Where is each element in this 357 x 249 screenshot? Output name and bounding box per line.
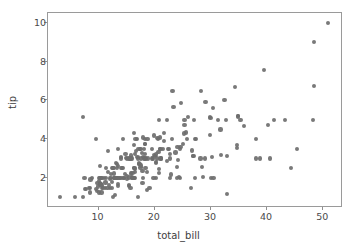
scatter-point [119,166,123,170]
scatter-point [182,123,186,127]
scatter-point [193,176,197,180]
scatter-point [128,186,132,190]
scatter-point [146,156,150,160]
scatter-point [111,195,115,199]
x-axis-tick [266,207,267,210]
x-axis-tick [154,207,155,210]
scatter-point [170,137,174,141]
scatter-point [58,195,62,199]
scatter-point [142,147,146,151]
scatter-point [132,131,136,135]
y-axis-label: tip [7,96,18,109]
scatter-point [150,156,154,160]
scatter-point [88,177,92,181]
scatter-point [119,156,123,160]
scatter-point [178,147,182,151]
scatter-point [156,137,160,141]
scatter-point [272,118,276,122]
scatter-point [106,149,110,153]
scatter-point [170,89,174,93]
scatter-point [157,118,161,122]
scatter-point [165,118,169,122]
x-axis-tick [210,207,211,210]
x-axis-label: total_bill [0,230,357,241]
x-axis-tick-label: 40 [260,211,272,222]
scatter-point [200,165,204,169]
scatter-point [162,131,166,135]
figure-canvas: 1020304050246810 total_bill tip [0,0,357,249]
scatter-point [150,147,154,151]
scatter-point [192,118,196,122]
scatter-point [211,106,215,110]
scatter-point [222,98,226,102]
y-axis-tick-label: 4 [40,133,46,144]
scatter-point [262,68,266,72]
scatter-point [175,165,179,169]
scatter-point [94,137,98,141]
x-axis-tick [322,207,323,210]
scatter-point [201,175,205,179]
scatter-point [143,152,147,156]
scatter-point [225,154,229,158]
scatter-point [145,137,149,141]
scatter-point [73,195,77,199]
scatter-point [110,186,114,190]
scatter-point [254,137,258,141]
scatter-point [186,115,190,119]
scatter-point [115,166,119,170]
scatter-point [312,84,316,88]
scatter-point [295,147,299,151]
scatter-point [218,127,222,131]
scatter-point [233,85,237,89]
scatter-point [258,156,262,160]
y-axis-tick-label: 6 [40,94,46,105]
scatter-point [199,89,203,93]
scatter-point [165,159,169,163]
scatter-point [208,133,212,137]
scatter-point [98,164,102,168]
scatter-point [311,118,315,122]
scatter-point [171,105,175,109]
scatter-point [122,176,126,180]
scatter-point [155,156,159,160]
scatter-point [176,158,180,162]
scatter-points-layer [48,13,341,206]
scatter-point [266,123,270,127]
scatter-point [121,137,125,141]
scatter-point [173,150,177,154]
scatter-point [109,172,113,176]
scatter-point [194,137,198,141]
scatter-point [179,101,183,105]
y-axis-tick-label: 2 [40,171,46,182]
plot-axes [47,12,342,207]
scatter-point [190,148,194,152]
scatter-point [198,156,202,160]
x-axis-tick [98,207,99,210]
scatter-point [82,176,86,180]
y-axis-tick-label: 8 [40,55,46,66]
scatter-point [216,118,220,122]
scatter-point [225,192,229,196]
y-axis-tick-label: 10 [34,16,46,27]
scatter-point [168,156,172,160]
scatter-point [141,176,145,180]
scatter-point [203,100,207,104]
scatter-point [88,190,92,194]
scatter-point [242,124,246,128]
scatter-point [210,155,214,159]
scatter-point [140,181,144,185]
x-axis-tick-label: 50 [316,211,328,222]
scatter-point [268,156,272,160]
scatter-point [152,133,156,137]
scatter-point [84,187,88,191]
scatter-point [131,176,135,180]
scatter-point [158,147,162,151]
scatter-point [133,137,137,141]
scatter-point [151,176,155,180]
scatter-point [116,147,120,151]
scatter-point [113,176,117,180]
scatter-point [326,21,330,25]
scatter-point [139,156,143,160]
scatter-point [128,156,132,160]
x-axis-tick-label: 30 [204,211,216,222]
